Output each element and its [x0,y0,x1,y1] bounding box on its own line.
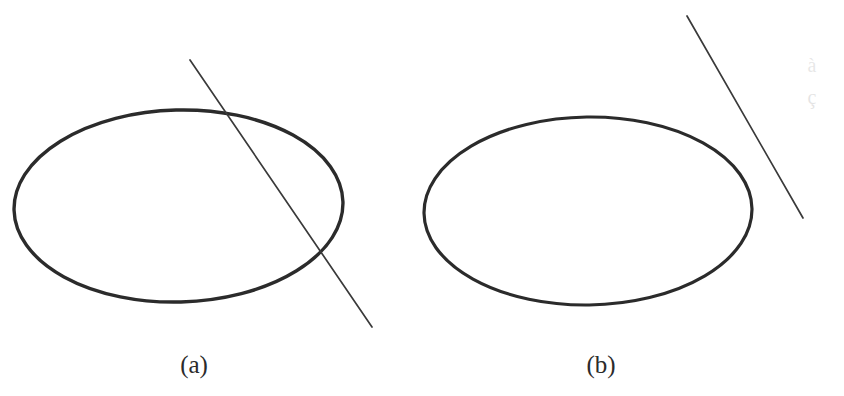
panel-caption-a: (a) [142,352,246,377]
figure-background [0,0,844,396]
figure-canvas: àç [0,0,844,396]
figure-container: àç (a) (b) [0,0,844,396]
scan-ghost-mark-upper: à [808,54,817,76]
panel-caption-b: (b) [549,352,653,377]
scan-ghost-mark-lower: ç [808,86,817,109]
